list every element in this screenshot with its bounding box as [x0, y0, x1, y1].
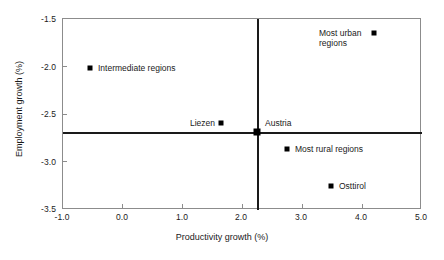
y-tick-label-0: -1.5 — [22, 14, 56, 24]
x-tick-label-0: -1.0 — [42, 212, 82, 222]
y-tick-label-3: -3.0 — [22, 157, 56, 167]
x-tick-label-5: 4.0 — [341, 212, 381, 222]
marker-most-urban-regions[interactable] — [372, 31, 377, 36]
marker-most-rural-regions[interactable] — [285, 147, 290, 152]
marker-liezen[interactable] — [219, 121, 224, 126]
x-tick-label-3: 2.0 — [221, 212, 261, 222]
x-tick-mark-3 — [302, 204, 303, 208]
point-label-most-urban-line1: Most urban — [319, 28, 362, 38]
reference-line-horizontal — [63, 132, 422, 134]
point-label-intermediate-regions: Intermediate regions — [98, 63, 176, 73]
point-label-osttirol: Osttirol — [339, 181, 366, 191]
x-tick-mark-4 — [362, 204, 363, 208]
point-label-most-urban-regions: Most urban regions — [319, 28, 367, 48]
y-tick-mark-1 — [63, 66, 67, 67]
marker-austria[interactable] — [254, 129, 261, 136]
x-tick-mark-1 — [182, 204, 183, 208]
reference-line-vertical — [257, 19, 259, 210]
point-label-most-rural-regions: Most rural regions — [295, 144, 363, 154]
scatter-chart-figure: Employment growth (%) -1.5 -2.0 -2.5 -3.… — [0, 0, 444, 260]
x-tick-label-2: 1.0 — [162, 212, 202, 222]
point-label-most-urban-line2: regions — [319, 38, 347, 48]
x-tick-label-1: 0.0 — [102, 212, 142, 222]
x-tick-mark-0 — [122, 204, 123, 208]
point-label-liezen: Liezen — [163, 118, 215, 128]
x-tick-label-4: 3.0 — [281, 212, 321, 222]
y-tick-mark-3 — [63, 161, 67, 162]
point-label-austria: Austria — [265, 118, 291, 128]
x-axis-title: Productivity growth (%) — [0, 232, 444, 242]
marker-osttirol[interactable] — [329, 184, 334, 189]
y-tick-label-2: -2.5 — [22, 109, 56, 119]
x-tick-mark-2 — [242, 204, 243, 208]
x-tick-label-6: 5.0 — [401, 212, 441, 222]
plot-area: Most urban regions Intermediate regions … — [62, 18, 421, 209]
marker-intermediate-regions[interactable] — [88, 66, 93, 71]
y-tick-label-1: -2.0 — [22, 62, 56, 72]
y-tick-mark-2 — [63, 114, 67, 115]
